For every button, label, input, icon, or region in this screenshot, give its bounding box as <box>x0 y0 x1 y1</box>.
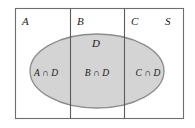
region-label-a-and-d: A ∩ D <box>33 68 58 78</box>
venn-diagram-figure: A B C S D A ∩ D B ∩ D C ∩ D <box>0 0 195 128</box>
venn-diagram-canvas: A B C S D A ∩ D B ∩ D C ∩ D <box>0 0 195 128</box>
universal-set-label-s: S <box>165 15 171 27</box>
set-label-d: D <box>91 37 100 49</box>
region-label-b-and-d: B ∩ D <box>85 68 109 78</box>
region-label-c-and-d: C ∩ D <box>136 68 161 78</box>
set-label-c: C <box>131 15 139 27</box>
set-label-b: B <box>77 15 84 27</box>
set-label-a: A <box>21 15 29 27</box>
